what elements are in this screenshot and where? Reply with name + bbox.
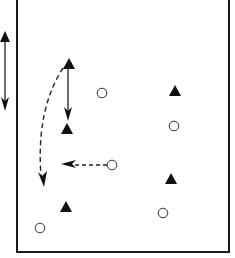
player-triangle — [169, 85, 181, 96]
pass-arrow — [61, 160, 107, 168]
drill-diagram — [0, 0, 235, 258]
shuttle-double-arrow — [64, 68, 72, 121]
player-circle — [35, 223, 45, 233]
player-triangle — [165, 173, 177, 184]
arrowhead-left-icon — [61, 160, 76, 168]
player-triangle — [63, 58, 75, 69]
arrowhead-down-icon — [38, 171, 47, 187]
player-circle — [158, 208, 168, 218]
arrowhead-up-icon — [0, 31, 10, 42]
curved-run-arrow — [38, 68, 63, 187]
player-circle — [97, 88, 107, 98]
outside-double-arrow — [0, 31, 10, 111]
field-boundary — [17, 0, 229, 252]
player-circle — [169, 121, 179, 131]
player-triangle — [61, 123, 73, 134]
player-triangle — [60, 201, 72, 212]
player-circle — [107, 160, 117, 170]
